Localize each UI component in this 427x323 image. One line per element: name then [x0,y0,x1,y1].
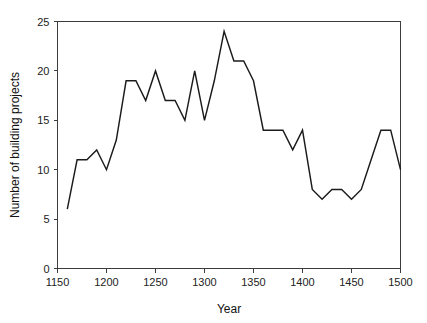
x-axis-tick-label: 1150 [46,276,70,288]
x-axis-tick-marks [58,269,401,273]
data-series-line [67,31,400,209]
y-axis-tick-labels: 0510152025 [37,16,49,275]
x-axis-tick-labels: 11501200125013001350140014501500 [46,276,413,288]
x-axis-tick-label: 1300 [192,276,216,288]
x-axis-tick-label: 1200 [94,276,118,288]
y-axis-tick-label: 5 [43,213,49,225]
x-axis-tick-label: 1350 [241,276,265,288]
y-axis-tick-marks [54,22,58,269]
line-chart: 0510152025 11501200125013001350140014501… [0,0,427,323]
x-axis-tick-label: 1500 [388,276,412,288]
y-axis-tick-label: 25 [37,16,49,28]
y-axis-tick-label: 0 [43,263,49,275]
y-axis-title: Number of building projects [8,72,22,218]
x-axis-tick-label: 1400 [290,276,314,288]
y-axis-tick-label: 20 [37,65,49,77]
y-axis-tick-label: 15 [37,114,49,126]
y-axis-tick-label: 10 [37,164,49,176]
chart-container: 0510152025 11501200125013001350140014501… [0,0,427,323]
x-axis-tick-label: 1250 [143,276,167,288]
x-axis-tick-label: 1450 [339,276,363,288]
x-axis-title: Year [217,302,241,316]
